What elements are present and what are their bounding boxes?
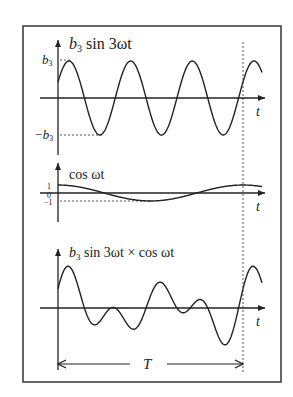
- svg-text:1: 1: [47, 182, 51, 191]
- diagram: b3 sin 3ωt b3 −b3 t cos ωt 1 0 −1 t b3 s…: [0, 0, 293, 397]
- svg-text:b3 sin 3ωt × cos ωt: b3 sin 3ωt × cos ωt: [69, 245, 174, 262]
- svg-text:b3: b3: [42, 52, 53, 68]
- svg-text:−1: −1: [44, 198, 53, 207]
- svg-text:b3 sin 3ωt: b3 sin 3ωt: [69, 35, 132, 54]
- svg-text:t: t: [256, 314, 261, 329]
- panel-coswt: cos ωt 1 0 −1 t: [40, 163, 265, 222]
- frame: [23, 26, 281, 382]
- product-curve: [58, 266, 262, 345]
- svg-text:T: T: [143, 356, 153, 372]
- svg-text:t: t: [256, 199, 261, 214]
- panel-sin3wt: b3 sin 3ωt b3 −b3 t: [34, 35, 265, 155]
- svg-text:cos ωt: cos ωt: [69, 167, 104, 182]
- panel-product: b3 sin 3ωt × cos ωt t: [40, 245, 265, 370]
- svg-text:−b3: −b3: [34, 127, 53, 143]
- period-indicator: T: [58, 356, 243, 372]
- svg-text:t: t: [256, 104, 261, 119]
